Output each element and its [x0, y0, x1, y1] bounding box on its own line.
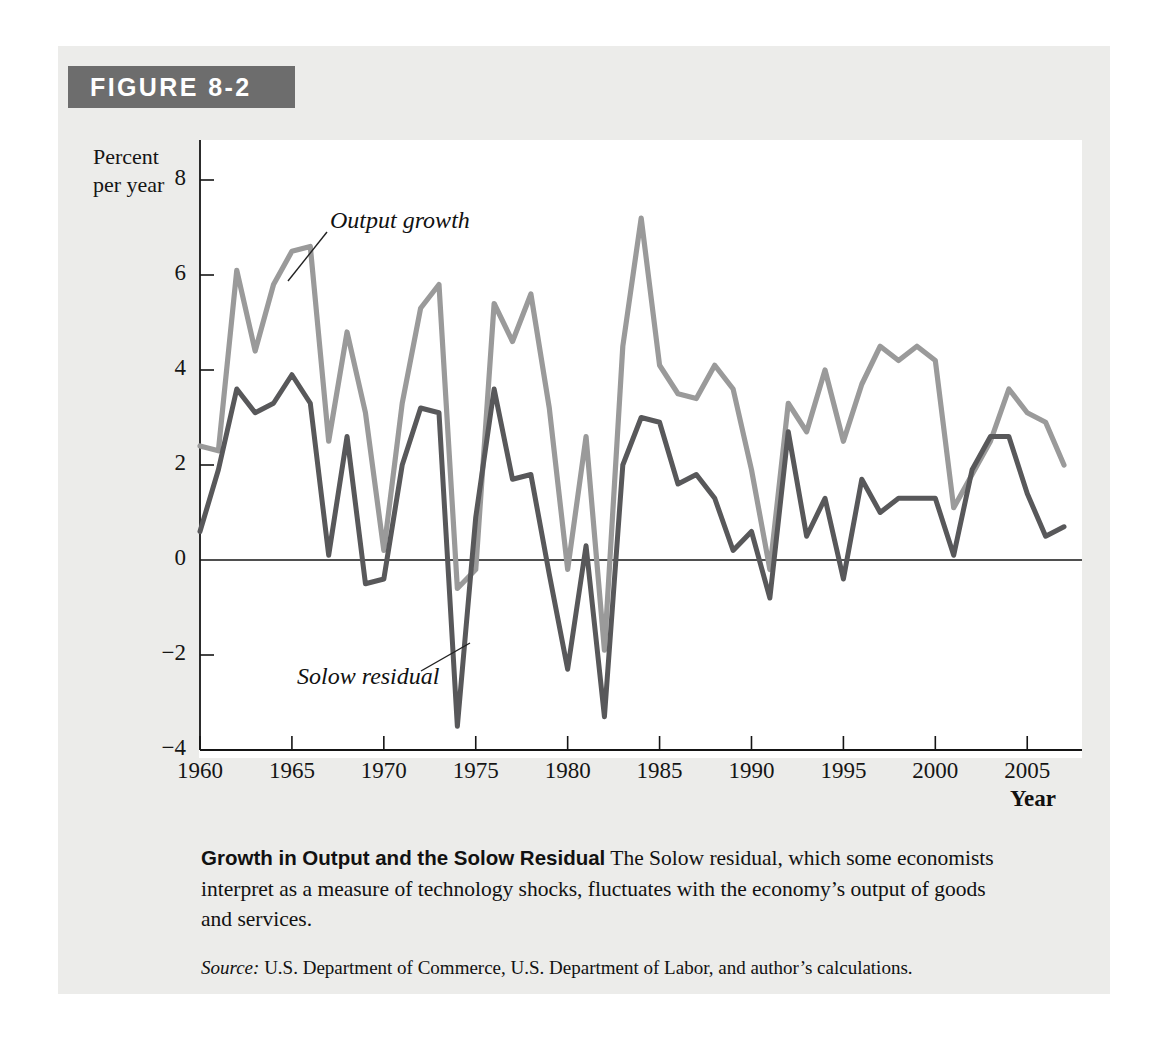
y-tick-label: 2	[142, 450, 186, 476]
x-tick-label: 1965	[257, 758, 327, 784]
x-tick-label: 1970	[349, 758, 419, 784]
figure-source-text: U.S. Department of Commerce, U.S. Depart…	[259, 957, 912, 978]
x-tick-label: 1980	[533, 758, 603, 784]
x-axis-title: Year	[1010, 786, 1056, 812]
x-tick-label: 1990	[716, 758, 786, 784]
figure-caption-block: Growth in Output and the Solow Residual …	[201, 843, 1001, 979]
figure-number-label: FIGURE 8-2	[68, 73, 252, 102]
x-tick-label: 1960	[165, 758, 235, 784]
y-tick-label: 8	[142, 165, 186, 191]
figure-source-label: Source:	[201, 957, 259, 978]
figure-page: FIGURE 8-2 Percent per year 86420−2−4 19…	[0, 0, 1167, 1039]
y-tick-label: 6	[142, 260, 186, 286]
figure-caption-title: Growth in Output and the Solow Residual	[201, 846, 605, 869]
figure-source-line: Source: U.S. Department of Commerce, U.S…	[201, 957, 1001, 979]
x-tick-label: 1985	[625, 758, 695, 784]
figure-banner: FIGURE 8-2	[68, 66, 295, 108]
annotation-output-growth: Output growth	[330, 207, 470, 234]
y-tick-label: −2	[142, 640, 186, 666]
x-tick-label: 1995	[808, 758, 878, 784]
annotation-solow-residual: Solow residual	[297, 663, 439, 690]
x-tick-label: 2000	[900, 758, 970, 784]
x-tick-label: 1975	[441, 758, 511, 784]
y-tick-label: 0	[142, 545, 186, 571]
x-tick-label: 2005	[992, 758, 1062, 784]
y-tick-label: 4	[142, 355, 186, 381]
figure-caption: Growth in Output and the Solow Residual …	[201, 843, 1001, 935]
